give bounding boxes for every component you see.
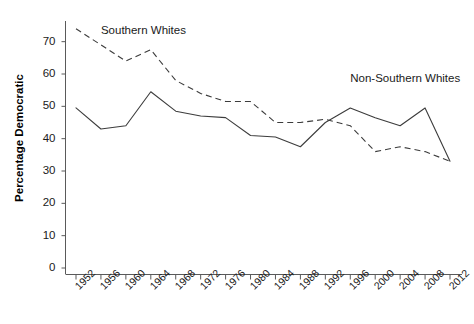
series-line-non-southern-whites	[76, 92, 450, 162]
series-annotation-label: Southern Whites	[101, 25, 186, 37]
y-axis-ticks	[62, 42, 66, 268]
data-series	[76, 29, 450, 162]
y-axis-tick-label: 60	[28, 68, 56, 80]
series-line-southern-whites	[76, 29, 450, 162]
y-axis-tick-label: 30	[28, 165, 56, 177]
y-axis-tick-label: 20	[28, 197, 56, 209]
y-axis-tick-label: 0	[28, 262, 56, 274]
axes	[66, 21, 463, 275]
y-axis-tick-label: 50	[28, 100, 56, 112]
y-axis-tick-label: 40	[28, 133, 56, 145]
chart-container: Percentage Democratic 010203040506070 19…	[0, 0, 474, 324]
y-axis-tick-label: 10	[28, 230, 56, 242]
series-annotation-label: Non-Southern Whites	[350, 73, 460, 85]
y-axis-tick-label: 70	[28, 36, 56, 48]
